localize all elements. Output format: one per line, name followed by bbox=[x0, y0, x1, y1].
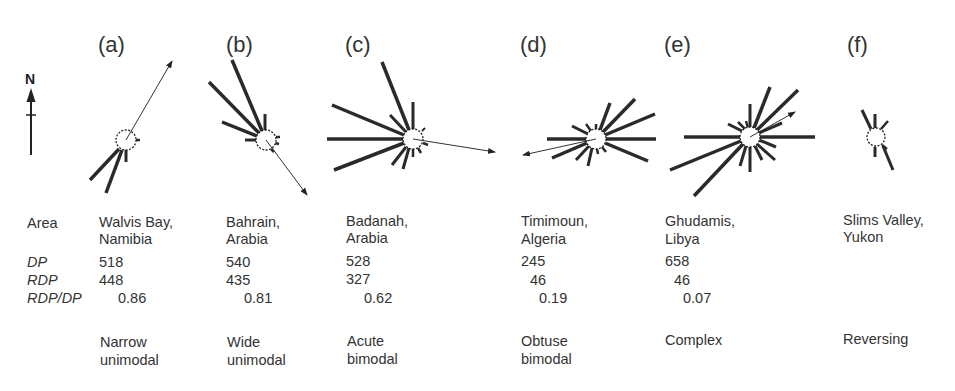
row-label-area: Area bbox=[27, 215, 58, 232]
type-e-line1: Complex bbox=[665, 332, 722, 349]
ratio-b: 0.81 bbox=[244, 290, 272, 307]
ratio-c: 0.62 bbox=[364, 290, 392, 307]
rdp-b: 435 bbox=[226, 272, 250, 289]
sand-rose-d bbox=[523, 99, 656, 166]
type-b-line2: unimodal bbox=[227, 352, 286, 369]
sand-rose-e bbox=[670, 87, 815, 196]
area-b-line2: Arabia bbox=[226, 231, 268, 248]
type-b-line1: Wide bbox=[227, 334, 260, 351]
rdp-e: 46 bbox=[674, 272, 690, 289]
area-e-line2: Libya bbox=[665, 231, 700, 248]
sand-rose-b bbox=[209, 60, 307, 195]
rdp-a: 448 bbox=[99, 272, 123, 289]
dp-b: 540 bbox=[226, 254, 250, 271]
sand-rose-c bbox=[327, 62, 495, 170]
area-a-line2: Namibia bbox=[99, 231, 152, 248]
dp-c: 528 bbox=[346, 253, 370, 270]
type-d-line1: Obtuse bbox=[521, 333, 568, 350]
type-a-line1: Narrow bbox=[100, 334, 147, 351]
type-f-line1: Reversing bbox=[843, 331, 908, 348]
area-f-line2: Yukon bbox=[843, 229, 883, 246]
row-label-rdp: RDP bbox=[27, 272, 58, 289]
sand-rose-f bbox=[862, 110, 893, 170]
ratio-e: 0.07 bbox=[683, 290, 711, 307]
type-c-line2: bimodal bbox=[347, 351, 398, 368]
north-arrow-icon bbox=[26, 88, 36, 155]
type-d-line2: bimodal bbox=[521, 351, 572, 368]
sand-rose-diagrams bbox=[0, 0, 955, 391]
area-f-line1: Slims Valley, bbox=[843, 212, 924, 229]
ratio-d: 0.19 bbox=[539, 290, 567, 307]
area-d-line2: Algeria bbox=[521, 231, 566, 248]
type-c-line1: Acute bbox=[347, 333, 384, 350]
area-b-line1: Bahrain, bbox=[226, 214, 280, 231]
dp-e: 658 bbox=[665, 253, 689, 270]
type-a-line2: unimodal bbox=[100, 352, 159, 369]
area-e-line1: Ghudamis, bbox=[665, 213, 735, 230]
area-c-line2: Arabia bbox=[346, 230, 388, 247]
sand-rose-a bbox=[90, 61, 172, 193]
ratio-a: 0.86 bbox=[118, 290, 146, 307]
dp-a: 518 bbox=[99, 254, 123, 271]
row-label-dp: DP bbox=[27, 254, 47, 271]
area-a-line1: Walvis Bay, bbox=[99, 214, 173, 231]
row-label-ratio: RDP/DP bbox=[27, 290, 82, 307]
dp-d: 245 bbox=[521, 253, 545, 270]
area-c-line1: Badanah, bbox=[346, 213, 408, 230]
rdp-d: 46 bbox=[530, 272, 546, 289]
rdp-c: 327 bbox=[346, 271, 370, 288]
area-d-line1: Timimoun, bbox=[521, 213, 588, 230]
